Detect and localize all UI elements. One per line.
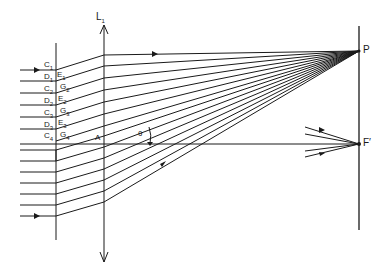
step-label: G4 [60,131,70,141]
step-label: C2 [44,85,53,95]
step-label: D1 [44,73,53,83]
ray-arrow-icon [152,51,158,57]
step-label: D3 [44,121,53,131]
step-label: E3 [58,119,67,129]
step-label: G3 [60,107,70,117]
ray-arrow-icon [34,213,40,219]
lens-label: L1 [96,12,105,24]
step-label: D2 [44,97,53,107]
ray-arrow-icon [34,67,40,73]
axis-point-a-label: A [95,134,100,142]
step-label: C1 [44,61,53,71]
focus-point-p [358,50,361,53]
focus-label: F′ [363,138,371,148]
step-label: E1 [57,71,66,81]
focus-point-f [357,142,361,146]
step-label: G2 [60,83,70,93]
diagram-canvas [0,0,389,276]
angle-theta-label: θ [138,130,142,138]
point-p-label: P [363,45,370,55]
step-label: C3 [44,109,53,119]
step-label: E2 [58,95,67,105]
step-label: C4 [44,132,53,142]
